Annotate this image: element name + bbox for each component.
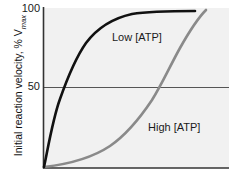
y-axis-label-text: Initial reaction velocity, % V — [12, 29, 24, 156]
series-label-low-atp: Low [ATP] — [112, 31, 162, 43]
y-axis-label: Initial reaction velocity, % Vmax — [12, 0, 27, 174]
series-label-high-atp: High [ATP] — [148, 121, 200, 133]
y-axis-label-subscript: max — [19, 15, 28, 29]
chart-figure: 100 50 Initial reaction velocity, % Vmax… — [0, 0, 229, 179]
